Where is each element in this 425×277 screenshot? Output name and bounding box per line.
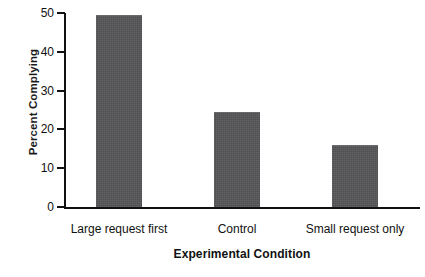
bar-chart: Percent Complying 01020304050 Large requ… (0, 0, 425, 277)
bar (332, 145, 378, 207)
y-tick-label: 0 (0, 201, 54, 213)
x-axis-line (64, 207, 420, 209)
y-tick-mark (57, 128, 65, 130)
y-tick-mark (57, 90, 65, 92)
y-tick-label: 20 (0, 123, 54, 135)
bar (214, 112, 260, 207)
y-tick-label: 10 (0, 162, 54, 174)
x-tick-label: Small request only (275, 222, 425, 236)
x-axis-title: Experimental Condition (64, 247, 420, 261)
bar (96, 15, 142, 207)
y-tick-label: 30 (0, 85, 54, 97)
y-tick-mark (57, 12, 65, 14)
plot-area (66, 13, 420, 207)
y-tick-label: 50 (0, 7, 54, 19)
y-tick-mark (57, 167, 65, 169)
y-tick-mark (57, 51, 65, 53)
y-tick-mark (57, 206, 65, 208)
y-tick-label: 40 (0, 46, 54, 58)
